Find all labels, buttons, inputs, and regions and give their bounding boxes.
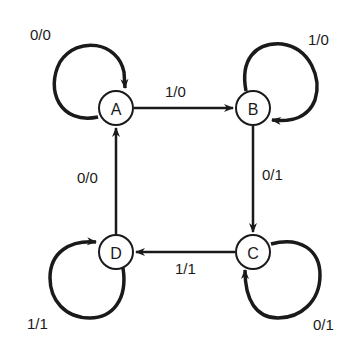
node-c: C [236,235,270,269]
edge-label-d-a: 0/0 [77,169,98,186]
edge-label-a-b: 1/0 [165,83,186,100]
state-diagram: 0/0 1/0 1/0 0/1 0/1 1/1 1/1 0/0 A B C D [0,0,354,353]
edge-label-a-a: 0/0 [30,26,51,43]
node-label-b: B [248,101,259,118]
edge-label-b-b: 1/0 [308,31,329,48]
edge-label-d-d: 1/1 [27,315,48,332]
node-label-a: A [111,101,122,118]
node-b: B [236,91,270,125]
edge-label-c-c: 0/1 [313,316,334,333]
diagram-svg: 0/0 1/0 1/0 0/1 0/1 1/1 1/1 0/0 A B C D [0,0,354,353]
edge-label-b-c: 0/1 [262,166,283,183]
node-d: D [99,235,133,269]
node-a: A [99,91,133,125]
node-label-c: C [247,245,259,262]
node-label-d: D [110,245,122,262]
edge-label-c-d: 1/1 [175,260,196,277]
